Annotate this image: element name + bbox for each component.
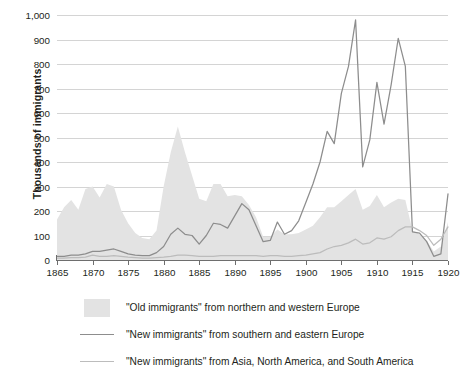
- plot-area: 01002003004005006007008009001,000 186518…: [0, 0, 468, 282]
- legend-label-new-immigrants-europe: "New immigrants" from southern and easte…: [118, 329, 364, 340]
- legend-item-new-immigrants-europe: "New immigrants" from southern and easte…: [76, 321, 456, 348]
- legend-key-line-light: [76, 352, 118, 372]
- legend-item-new-immigrants-americas-asia: "New immigrants" from Asia, North Americ…: [76, 348, 456, 375]
- legend-label-old-immigrants: "Old immigrants" from northern and weste…: [118, 302, 360, 313]
- x-tick-label-1915: 1915: [402, 267, 424, 278]
- x-tick-label-1885: 1885: [189, 267, 211, 278]
- x-tick-label-1900: 1900: [296, 267, 318, 278]
- line-swatch-dark-icon: [80, 334, 114, 335]
- data-series-group: [57, 20, 448, 260]
- legend-key-line-dark: [76, 325, 118, 345]
- x-tick-label-1870: 1870: [83, 267, 105, 278]
- legend-key-area: [76, 298, 118, 318]
- x-tick-label-1880: 1880: [154, 267, 176, 278]
- immigration-chart-figure: 01002003004005006007008009001,000 186518…: [0, 0, 468, 379]
- x-axis-tick-labels: 1865187018751880188518901895190019051910…: [47, 267, 460, 278]
- x-tick-label-1905: 1905: [331, 267, 353, 278]
- x-tick-label-1910: 1910: [367, 267, 389, 278]
- y-tick-label-0: 0: [45, 255, 51, 266]
- chart-svg: 01002003004005006007008009001,000 186518…: [0, 0, 468, 282]
- y-axis-title: Thousands of immigrants: [31, 19, 43, 249]
- x-tick-label-1895: 1895: [260, 267, 282, 278]
- x-tick-label-1875: 1875: [118, 267, 140, 278]
- x-tick-label-1890: 1890: [225, 267, 247, 278]
- area-swatch-icon: [84, 299, 110, 317]
- x-tick-label-1865: 1865: [47, 267, 69, 278]
- series-area-old-immigrants: [57, 126, 448, 260]
- legend-item-old-immigrants: "Old immigrants" from northern and weste…: [76, 294, 456, 321]
- line-swatch-light-icon: [80, 361, 114, 362]
- chart-legend: "Old immigrants" from northern and weste…: [76, 294, 456, 375]
- x-tick-label-1920: 1920: [438, 267, 460, 278]
- legend-label-new-immigrants-americas-asia: "New immigrants" from Asia, North Americ…: [118, 356, 414, 367]
